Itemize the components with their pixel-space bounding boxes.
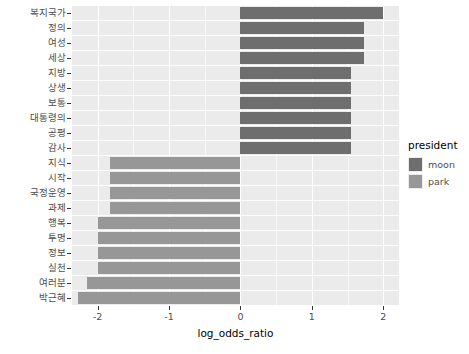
x-axis-tick	[98, 306, 99, 310]
y-axis-tick	[67, 178, 71, 179]
y-axis-tick	[67, 73, 71, 74]
y-axis-label: 보통	[48, 97, 66, 109]
y-axis-label: 행복	[48, 217, 66, 229]
x-axis-tick-label: 0	[225, 311, 255, 322]
bar-park	[98, 262, 241, 274]
y-axis-tick	[67, 238, 71, 239]
y-axis-label: 실천	[48, 262, 66, 274]
y-axis-label: 정의	[48, 22, 66, 34]
plot-panel	[72, 5, 399, 305]
x-axis-tick	[169, 306, 170, 310]
y-axis-tick	[67, 148, 71, 149]
x-axis-tick-label: 2	[368, 311, 398, 322]
y-axis-label: 정보	[48, 247, 66, 259]
y-axis-tick	[67, 223, 71, 224]
x-axis-tick	[312, 306, 313, 310]
y-axis-label: 공평	[48, 127, 66, 139]
y-axis-tick	[67, 58, 71, 59]
y-axis-label: 지방	[48, 67, 66, 79]
x-axis-tick	[383, 306, 384, 310]
y-axis-tick	[67, 253, 71, 254]
y-axis-tick	[67, 13, 71, 14]
log-odds-ratio-bar-chart: 복지국가정의여성세상지방상생보통대통령의공평감사지식시작국정운영과제행복투명정보…	[0, 0, 469, 354]
bar-park	[98, 247, 241, 259]
bar-park	[87, 277, 241, 289]
y-axis-label: 대통령의	[30, 112, 66, 124]
y-axis-tick	[67, 208, 71, 209]
y-axis-label: 복지국가	[30, 7, 66, 19]
bar-moon	[240, 37, 364, 49]
legend: president moonpark	[408, 139, 469, 191]
y-axis-tick	[67, 103, 71, 104]
legend-item-moon[interactable]: moon	[408, 157, 469, 172]
y-axis-tick	[67, 163, 71, 164]
legend-swatch-moon	[409, 158, 422, 171]
bar-park	[98, 232, 241, 244]
y-axis-tick	[67, 133, 71, 134]
y-axis-label: 여러분	[39, 277, 66, 289]
legend-entries: moonpark	[408, 157, 469, 189]
y-axis-tick	[67, 268, 71, 269]
bar-park	[98, 217, 241, 229]
y-axis-tick	[67, 298, 71, 299]
bar-moon	[240, 97, 351, 109]
x-axis-tick-label: 1	[297, 311, 327, 322]
bar-moon	[240, 67, 351, 79]
y-axis-tick	[67, 88, 71, 89]
x-axis-tick-label: -2	[83, 311, 113, 322]
bar-park	[110, 187, 241, 199]
bar-park	[110, 172, 241, 184]
bar-moon	[240, 112, 351, 124]
legend-label: moon	[428, 159, 455, 170]
y-axis-labels: 복지국가정의여성세상지방상생보통대통령의공평감사지식시작국정운영과제행복투명정보…	[0, 5, 66, 305]
bar-park	[78, 292, 241, 304]
legend-key	[408, 157, 423, 172]
legend-title: president	[408, 139, 469, 151]
legend-swatch-park	[409, 175, 422, 188]
legend-key	[408, 174, 423, 189]
bar-park	[110, 202, 241, 214]
gridline-minor-y	[72, 305, 399, 306]
bar-moon	[240, 22, 364, 34]
y-axis-label: 시작	[48, 172, 66, 184]
legend-item-park[interactable]: park	[408, 174, 469, 189]
y-axis-label: 여성	[48, 37, 66, 49]
y-axis-label: 세상	[48, 52, 66, 64]
y-axis-tick	[67, 193, 71, 194]
y-axis-tick	[67, 43, 71, 44]
bar-moon	[240, 52, 364, 64]
y-axis-tick	[67, 283, 71, 284]
x-axis-tick-label: -1	[154, 311, 184, 322]
y-axis-label: 국정운영	[30, 187, 66, 199]
y-axis-tick	[67, 28, 71, 29]
bar-moon	[240, 82, 351, 94]
y-axis-label: 박근혜	[39, 292, 66, 304]
bar-moon	[240, 7, 383, 19]
bar-moon	[240, 127, 351, 139]
bar-moon	[240, 142, 351, 154]
y-axis-label: 감사	[48, 142, 66, 154]
y-axis-label: 투명	[48, 232, 66, 244]
legend-label: park	[428, 176, 449, 187]
x-axis-title: log_odds_ratio	[72, 327, 399, 339]
y-axis-label: 지식	[48, 157, 66, 169]
bar-park	[110, 157, 241, 169]
y-axis-label: 상생	[48, 82, 66, 94]
x-axis-tick	[240, 306, 241, 310]
y-axis-label: 과제	[48, 202, 66, 214]
y-axis-tick	[67, 118, 71, 119]
